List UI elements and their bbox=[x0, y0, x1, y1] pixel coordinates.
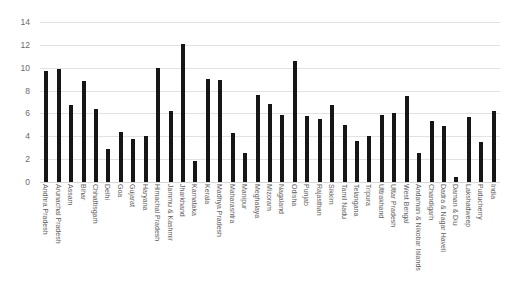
bar bbox=[144, 136, 148, 182]
bar bbox=[293, 61, 297, 182]
bar bbox=[268, 104, 272, 182]
x-axis-tick-label: Sikkim bbox=[328, 184, 335, 205]
bar bbox=[442, 126, 446, 182]
bar bbox=[57, 69, 61, 182]
x-axis-tick-label: Andaman & Nikobar Islands bbox=[415, 184, 422, 271]
x-axis-tick-label: Jammu & Kashmir bbox=[167, 184, 174, 241]
bar bbox=[69, 105, 73, 182]
x-axis-tick-label: Delhi bbox=[104, 184, 111, 200]
x-axis-tick-label: Arunachal Pradesh bbox=[55, 184, 62, 244]
x-axis-tick-label: Goa bbox=[117, 184, 124, 197]
x-axis-tick-label: Uttrakhand bbox=[378, 184, 385, 218]
x-axis-tick-label: Manipur bbox=[241, 184, 248, 209]
bar bbox=[256, 95, 260, 182]
x-axis-tick-label: Himachal Pradesh bbox=[154, 184, 161, 241]
x-axis: Andhra PradeshArunachal PradeshAssamBiha… bbox=[40, 184, 500, 302]
bar bbox=[367, 136, 371, 182]
x-axis-tick-label: Daman & Diu bbox=[452, 184, 459, 226]
bar bbox=[106, 149, 110, 182]
x-axis-tick-label: Andhra Pradesh bbox=[42, 184, 49, 235]
bar bbox=[492, 111, 496, 182]
x-axis-tick-label: Rajasthan bbox=[316, 184, 323, 216]
y-axis-tick-label: 12 bbox=[21, 41, 30, 50]
x-axis-tick-label: India bbox=[490, 184, 497, 199]
x-axis-tick-label: Dadra & Nagar Haveli bbox=[440, 184, 447, 252]
x-axis-tick-label: Punjab bbox=[303, 184, 310, 206]
x-axis-tick-label: Bihar bbox=[80, 184, 87, 200]
x-axis-tick-label: Maharashtra bbox=[229, 184, 236, 223]
x-axis-tick-label: Odisha bbox=[291, 184, 298, 206]
y-axis-tick-label: 6 bbox=[25, 109, 30, 118]
y-axis-tick-label: 8 bbox=[25, 86, 30, 95]
x-axis-tick-label: Telangana bbox=[353, 184, 360, 216]
bar bbox=[318, 119, 322, 182]
x-axis-tick-label: Madhya Pradesh bbox=[216, 184, 223, 237]
x-axis-tick-label: Puducherry bbox=[477, 184, 484, 220]
bar bbox=[44, 71, 48, 182]
x-axis-tick-label: Gujarat bbox=[129, 184, 136, 207]
bar bbox=[343, 125, 347, 182]
bar bbox=[181, 44, 185, 182]
bar-chart: 02468101214 Andhra PradeshArunachal Prad… bbox=[0, 0, 516, 305]
bar bbox=[82, 81, 86, 182]
x-axis-tick-label: Chandigarh bbox=[428, 184, 435, 220]
bar bbox=[417, 153, 421, 182]
bar bbox=[218, 80, 222, 182]
x-axis-tick-label: Jharkhand bbox=[179, 184, 186, 217]
x-axis-tick-label: Haryana bbox=[142, 184, 149, 210]
y-axis-tick-label: 2 bbox=[25, 155, 30, 164]
bar bbox=[280, 115, 284, 182]
bar bbox=[169, 111, 173, 182]
x-axis-tick-label: Meghalaya bbox=[254, 184, 261, 218]
bar bbox=[330, 105, 334, 182]
bar bbox=[454, 177, 458, 182]
y-axis-tick-label: 10 bbox=[21, 63, 30, 72]
bar bbox=[479, 142, 483, 182]
x-axis-tick-label: Kerala bbox=[204, 184, 211, 204]
x-axis-tick-label: Lakshadweep bbox=[465, 184, 472, 227]
y-axis-tick-label: 14 bbox=[21, 18, 30, 27]
bar bbox=[392, 113, 396, 182]
x-axis-tick-label: Chhattisgarh bbox=[92, 184, 99, 224]
bar bbox=[430, 121, 434, 182]
x-axis-tick-label: Nagaland bbox=[278, 184, 285, 214]
bar bbox=[243, 153, 247, 182]
y-axis-tick-label: 4 bbox=[25, 132, 30, 141]
x-axis-tick-label: Tripura bbox=[365, 184, 372, 206]
bar bbox=[380, 115, 384, 182]
bar bbox=[355, 141, 359, 182]
x-axis-tick-label: Karnataka bbox=[191, 184, 198, 216]
bar bbox=[305, 116, 309, 182]
gridline bbox=[40, 182, 500, 183]
x-axis-tick-label: West Bengal bbox=[403, 184, 410, 224]
bar bbox=[94, 109, 98, 182]
bar bbox=[467, 117, 471, 182]
x-axis-tick-label: Tamil Nadu bbox=[341, 184, 348, 219]
y-axis-tick-label: 0 bbox=[25, 178, 30, 187]
bar bbox=[156, 68, 160, 182]
bar bbox=[405, 96, 409, 182]
bar bbox=[206, 79, 210, 182]
y-axis: 02468101214 bbox=[0, 22, 36, 182]
x-axis-tick-label: Uttar Pradesh bbox=[390, 184, 397, 227]
bar bbox=[131, 139, 135, 182]
bar bbox=[193, 161, 197, 182]
x-axis-tick-label: Mizoram bbox=[266, 184, 273, 211]
bars-layer bbox=[40, 22, 500, 182]
bar bbox=[119, 132, 123, 182]
bar bbox=[231, 133, 235, 182]
x-axis-tick-label: Assam bbox=[67, 184, 74, 205]
